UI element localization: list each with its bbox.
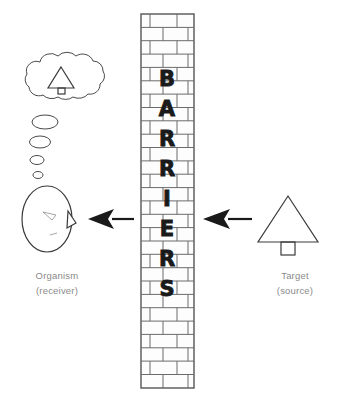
arrow-wall-to-organism [88, 209, 134, 229]
arrow-target-to-wall [203, 209, 252, 229]
wall-letter-4: I [163, 187, 171, 211]
wall-letter-2: R [159, 127, 175, 151]
thought-trail-bubbles [30, 115, 59, 179]
organism [22, 186, 76, 252]
wall-letter-5: E [160, 217, 174, 241]
organism-label: Organism (receiver) [36, 270, 79, 296]
organism-label-line1: Organism [36, 270, 79, 281]
thought-trail-bubble-2 [30, 136, 51, 148]
wall-letter-3: R [159, 157, 175, 181]
diagram-canvas: B A R R I E R S Organism (receiver) [0, 0, 337, 404]
wall-letter-0: B [159, 67, 175, 91]
organism-mouth-icon [50, 233, 57, 235]
thought-tree-icon [48, 67, 74, 94]
target-label-line1: Target [281, 270, 309, 281]
target-label: Target (source) [277, 270, 313, 296]
wall-letter-7: S [159, 277, 174, 301]
thought-bubble [25, 52, 104, 99]
organism-eye-icon [43, 212, 56, 220]
barrier-wall: B A R R I E R S [141, 14, 194, 388]
organism-label-line2: (receiver) [36, 285, 78, 296]
barriers-diagram-svg: B A R R I E R S Organism (receiver) [0, 0, 337, 404]
wall-letter-1: A [159, 97, 176, 121]
thought-trail-bubble-4 [33, 172, 43, 179]
target-label-line2: (source) [277, 285, 313, 296]
target-tree [258, 196, 318, 255]
wall-letter-6: R [159, 247, 175, 271]
thought-trail-bubble-1 [32, 115, 58, 129]
thought-trail-bubble-3 [30, 156, 44, 165]
target-tree-trunk [281, 242, 295, 255]
target-tree-canopy [258, 196, 318, 242]
organism-body [22, 186, 72, 252]
